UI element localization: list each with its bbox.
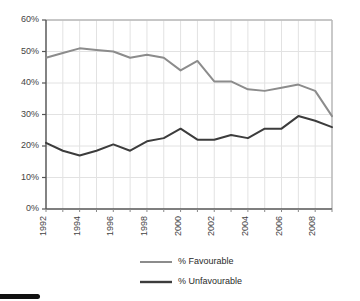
y-tick-label: 40% [21, 77, 39, 87]
plot-area-wrapper: 0%10%20%30%40%50%60% 1992199419961998200… [0, 0, 360, 301]
y-tick-label: 10% [21, 172, 39, 182]
y-tick-label: 60% [21, 14, 39, 24]
x-tick-label: 2006 [274, 216, 284, 236]
legend-label: % Unfavourable [178, 276, 242, 286]
x-tick-label: 1996 [105, 216, 115, 236]
line-chart: 0%10%20%30%40%50%60% 1992199419961998200… [0, 0, 360, 301]
x-tick-label: 2008 [307, 216, 317, 236]
x-tick-label: 2000 [173, 216, 183, 236]
y-tick-label: 0% [26, 203, 39, 213]
x-tick-label: 2004 [240, 216, 250, 236]
x-axis-tick-labels: 199219941996199820002002200420062008 [38, 216, 317, 236]
legend-label: % Favourable [178, 256, 234, 266]
chart-legend: % Favourable% Unfavourable [140, 256, 242, 286]
y-axis-tick-labels: 0%10%20%30%40%50%60% [21, 14, 39, 213]
chart-figure: 0%10%20%30%40%50%60% 1992199419961998200… [0, 0, 360, 301]
x-tick-label: 1994 [72, 216, 82, 236]
y-tick-label: 50% [21, 46, 39, 56]
corner-artifact-strip [0, 294, 40, 299]
x-tick-label: 1998 [139, 216, 149, 236]
x-tick-label: 1992 [38, 216, 48, 236]
x-tick-label: 2002 [206, 216, 216, 236]
y-tick-label: 30% [21, 109, 39, 119]
y-tick-label: 20% [21, 140, 39, 150]
